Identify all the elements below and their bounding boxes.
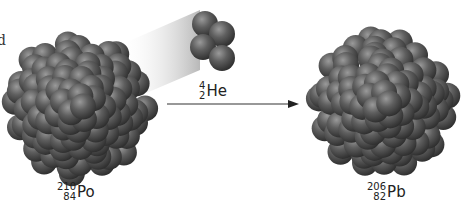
pb-206-nucleus [306, 26, 460, 175]
nucleon [376, 90, 402, 116]
po-label: 21084 Po [57, 178, 95, 202]
alpha-label: 42 He [199, 77, 227, 101]
pb-label: 20682 Pb [367, 178, 406, 202]
nucleon [70, 94, 96, 120]
alpha-nucleon [209, 45, 235, 71]
reaction-arrow [167, 100, 299, 108]
alpha-decay-diagram: d 42 He [0, 0, 467, 203]
